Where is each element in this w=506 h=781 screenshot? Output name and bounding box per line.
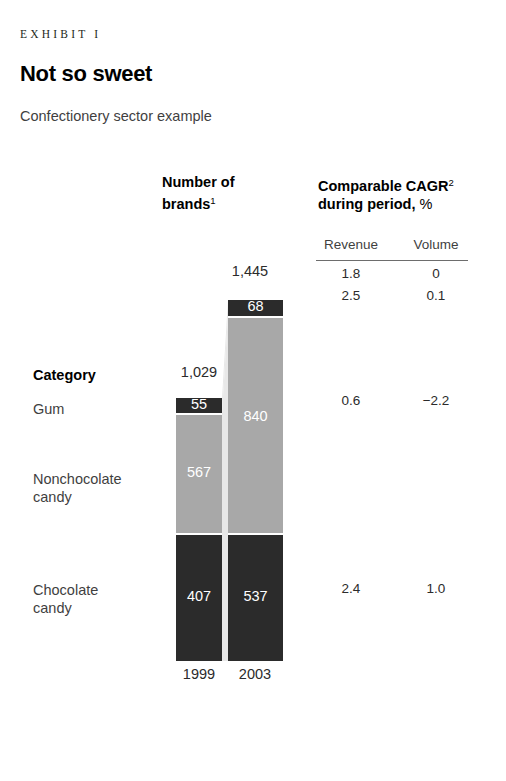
bar-2003-nonchocolate xyxy=(228,318,283,533)
value-label-2003-gum: 68 xyxy=(228,298,283,314)
value-label-1999-gum: 55 xyxy=(176,396,222,412)
value-label-1999-nonchocolate: 567 xyxy=(176,464,222,480)
value-label-2003-chocolate: 537 xyxy=(228,588,283,604)
bar-total-2003: 1,445 xyxy=(210,263,290,279)
value-label-2003-nonchocolate: 840 xyxy=(228,408,283,424)
bar-total-1999: 1,029 xyxy=(159,364,239,380)
stacked-bar-chart xyxy=(0,0,506,781)
x-axis-label-2003: 2003 xyxy=(222,666,288,682)
value-label-1999-chocolate: 407 xyxy=(176,588,222,604)
